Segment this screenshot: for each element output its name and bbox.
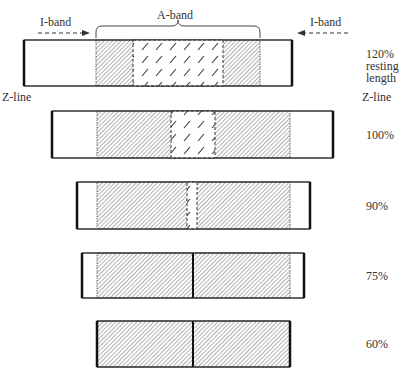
- sarcomere-row: [24, 40, 292, 86]
- i-band-left-label: I-band: [40, 15, 71, 29]
- h-zone-pattern: [187, 182, 197, 229]
- arrowhead-left-icon: [297, 30, 305, 36]
- length-percent-label: 60%: [366, 337, 388, 351]
- length-percent-label: 90%: [366, 199, 388, 213]
- resting-length-label-3: length: [366, 71, 396, 85]
- sarcomere-row: 75%: [82, 253, 388, 298]
- h-zone-pattern: [133, 40, 223, 86]
- sarcomere-row: 90%: [77, 182, 388, 229]
- sarcomere-row: 60%: [97, 321, 388, 367]
- sarcomere-diagram: I-band A-band I-band Z-line Z-line 120% …: [0, 0, 404, 377]
- sarcomere-row: 100%: [52, 111, 394, 158]
- h-zone-pattern: [171, 111, 215, 158]
- sarcomere-rows: 100%90%75%60%: [24, 40, 394, 367]
- arrowhead-right-icon: [82, 30, 90, 36]
- length-percent-label: 100%: [366, 128, 394, 142]
- z-line-left-label: Z-line: [2, 90, 31, 104]
- a-band-label: A-band: [157, 8, 193, 22]
- i-band-right-label: I-band: [310, 15, 341, 29]
- length-percent-label: 75%: [366, 269, 388, 283]
- a-band-brace: [96, 20, 260, 38]
- z-line-right-label: Z-line: [362, 90, 391, 104]
